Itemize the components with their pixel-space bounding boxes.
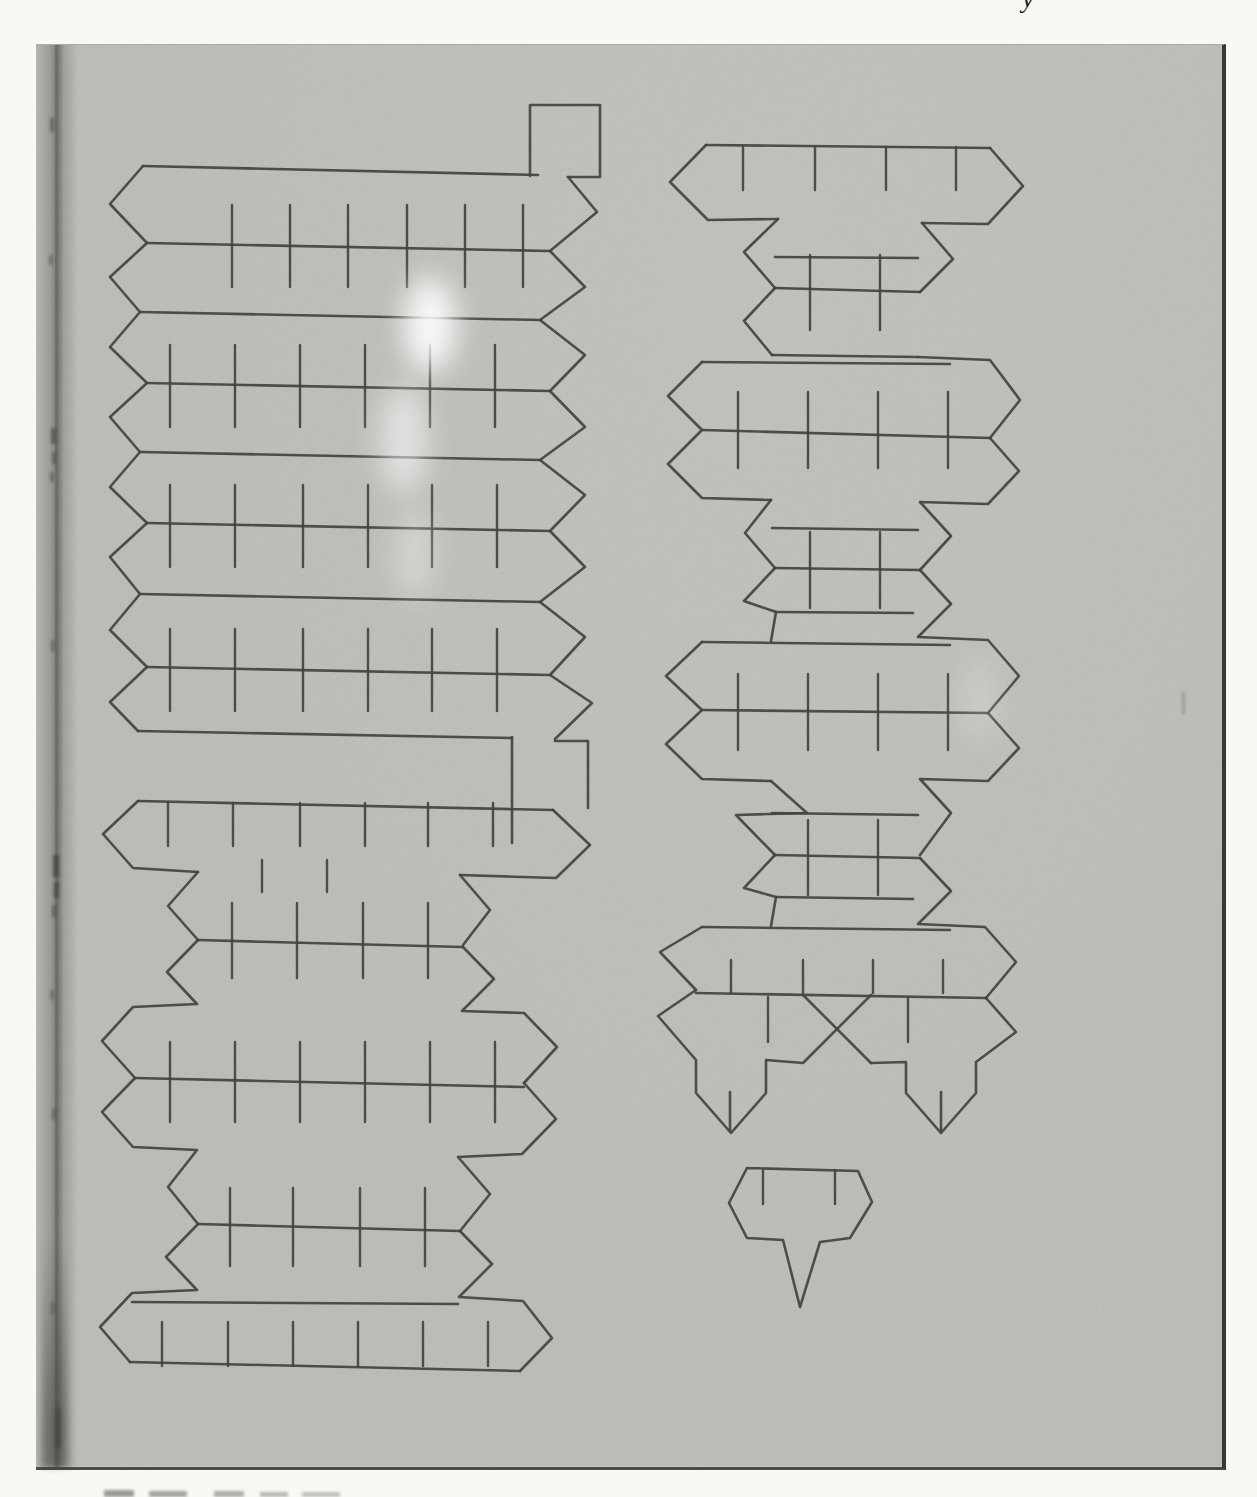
smudge-mark-5 <box>50 472 54 482</box>
rf-row4-bottom <box>776 612 913 613</box>
smudge-mark-4 <box>52 452 56 464</box>
smudge-mark-13 <box>55 1408 61 1448</box>
smudge-mark-11 <box>52 1108 56 1120</box>
glare-spot-2 <box>380 385 428 495</box>
smudge-mark-12 <box>51 1302 55 1314</box>
smudge-mark-18 <box>260 1492 288 1497</box>
smudge-mark-19 <box>302 1492 340 1497</box>
smudge-mark-2 <box>49 255 53 265</box>
rf-row2-top <box>775 257 918 258</box>
smudge-mark-17 <box>214 1491 244 1497</box>
smudge-mark-14 <box>1182 692 1185 714</box>
smudge-mark-6 <box>51 640 55 652</box>
smudge-mark-1 <box>50 118 54 132</box>
smudge-mark-15 <box>104 1490 134 1497</box>
smudge-mark-7 <box>53 855 59 877</box>
smudge-mark-16 <box>149 1491 187 1497</box>
figure-drawing <box>0 0 1257 1497</box>
smudge-mark-3 <box>51 428 56 444</box>
smudge-mark-8 <box>54 882 59 898</box>
glare-spot-3 <box>395 510 435 600</box>
glare-spot-4 <box>962 660 998 740</box>
glare-spot-1 <box>404 277 456 373</box>
smudge-mark-10 <box>50 990 54 1000</box>
scan-viewport: y <box>0 0 1257 1497</box>
smudge-mark-9 <box>52 905 56 917</box>
paper-grain-texture <box>36 44 1222 1466</box>
